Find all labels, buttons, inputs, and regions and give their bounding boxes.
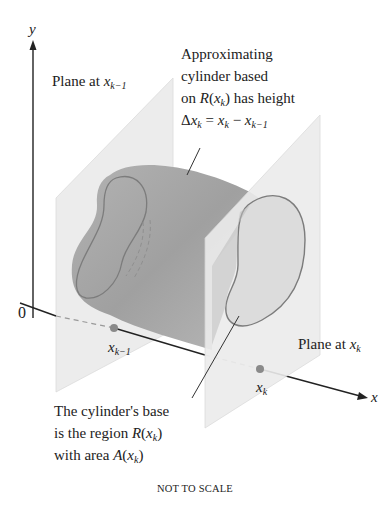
subscript: k−1 [115, 346, 131, 357]
minus: − [229, 112, 245, 128]
annotation-line: Δxk = xk − xk−1 [181, 109, 295, 131]
text: on [181, 90, 200, 106]
var-x: x [256, 379, 263, 395]
y-axis [30, 40, 37, 318]
var-x: x [214, 90, 221, 106]
plane-text: Plane at [298, 336, 350, 352]
annotation-line: with area A(xk) [54, 444, 169, 466]
text: with area [54, 447, 113, 463]
paren: ) [138, 447, 143, 463]
subscript: k−1 [252, 119, 268, 130]
label-x-k: xk [256, 378, 267, 396]
var-x: x [127, 447, 134, 463]
annotation-line: is the region R(xk) [54, 422, 169, 444]
annotation-line: on R(xk) has height [181, 87, 295, 109]
var-R: R [200, 90, 209, 106]
plane-right-label: Plane at xk [298, 335, 361, 353]
paren: ) [157, 425, 162, 441]
var-A: A [113, 447, 122, 463]
subscript: k [356, 343, 360, 354]
equals: = [202, 112, 218, 128]
annotation-line: Approximating [181, 43, 295, 65]
subscript: k [263, 386, 267, 397]
annotation-line: The cylinder's base [54, 400, 169, 422]
subscript: k−1 [110, 80, 126, 91]
plane-text: Plane at [52, 73, 104, 89]
delta: Δ [181, 112, 191, 128]
annotation-line: cylinder based [181, 65, 295, 87]
x-axis-label: x [371, 388, 378, 406]
base-annotation: The cylinder's base is the region R(xk) … [54, 400, 169, 466]
plane-left-label: Plane at xk−1 [52, 72, 127, 90]
text: ) has height [225, 90, 295, 106]
not-to-scale-note: NOT TO SCALE [157, 480, 233, 498]
var-x: x [108, 339, 115, 355]
label-x-k-minus-1: xk−1 [108, 338, 131, 356]
leader-cylinder [187, 148, 200, 175]
y-axis-label: y [29, 20, 36, 38]
var-R: R [132, 425, 141, 441]
var-x: x [146, 425, 153, 441]
point-x-k [256, 365, 264, 373]
origin-label: 0 [18, 304, 26, 322]
text: is the region [54, 425, 132, 441]
var-x: x [245, 112, 252, 128]
cylinder-annotation: Approximating cylinder based on R(xk) ha… [181, 43, 295, 131]
point-x-k-minus-1 [110, 324, 118, 332]
